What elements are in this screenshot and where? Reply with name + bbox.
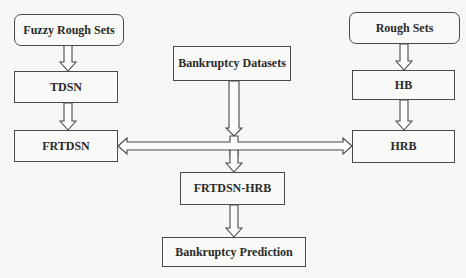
node-bankruptcy-datasets: Bankruptcy Datasets [173, 46, 291, 81]
node-label: FRTDSN-HRB [194, 181, 272, 196]
node-label: TDSN [50, 80, 82, 95]
node-hb: HB [352, 70, 455, 100]
node-tdsn: TDSN [14, 71, 118, 103]
node-label: Fuzzy Rough Sets [23, 23, 114, 38]
arrow-rough-to-hb [396, 44, 412, 70]
node-label: Rough Sets [376, 21, 434, 36]
node-label: HRB [390, 139, 416, 154]
node-label: Bankruptcy Prediction [175, 245, 292, 260]
arrow-tdsn-to-frtdsn [60, 103, 76, 130]
node-hrb: HRB [352, 130, 455, 163]
node-frtdsn-hrb: FRTDSN-HRB [180, 172, 285, 205]
arrow-datasets-cross [226, 81, 242, 136]
arrow-cross-to-frtdsn-hrb [226, 150, 242, 172]
node-rough-sets: Rough Sets [349, 12, 460, 44]
arrow-frtdsn-hrb-to-prediction [226, 205, 242, 237]
node-frtdsn: FRTDSN [14, 130, 118, 162]
node-bankruptcy-prediction: Bankruptcy Prediction [162, 237, 306, 267]
node-fuzzy-rough-sets: Fuzzy Rough Sets [14, 14, 124, 46]
node-label: FRTDSN [42, 139, 90, 154]
arrow-hb-to-hrb [396, 100, 412, 130]
arrow-fuzzy-to-tdsn [60, 45, 76, 71]
node-label: Bankruptcy Datasets [178, 56, 286, 71]
node-label: HB [395, 78, 412, 93]
